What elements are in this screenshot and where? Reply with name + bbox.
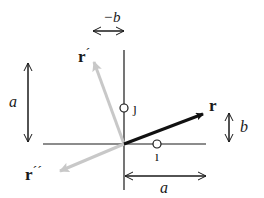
vector-r-prime (94, 62, 124, 144)
label-r-double-prime: r´´ (25, 164, 42, 184)
label-unit-i: ı (155, 149, 159, 164)
label-r: r (209, 96, 217, 115)
vector-r-double-prime (60, 144, 124, 171)
label-unit-j: ȷ (132, 101, 137, 116)
unit-i-marker (153, 140, 161, 148)
vector-r (124, 114, 203, 144)
label-r-prime: r´ (78, 46, 90, 66)
unit-j-marker (120, 104, 128, 112)
label-dimension-top-minus-b: −b (103, 9, 121, 25)
vector-diagram: r r´ r´´ ȷ ı a a b −b (0, 0, 264, 198)
label-dimension-bottom-a: a (160, 179, 168, 196)
label-dimension-left-a: a (9, 93, 17, 110)
label-dimension-right-b: b (240, 118, 248, 135)
